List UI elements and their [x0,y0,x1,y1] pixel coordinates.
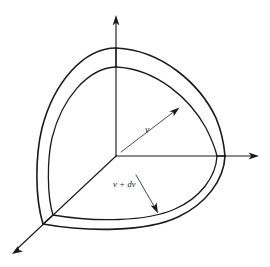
labels-group: v v+dv [113,125,150,189]
depth-axis [12,156,116,254]
inner-radius-arrow-icon [169,108,179,117]
horizontal-axis [116,153,259,160]
shell-thickness-leader [136,175,158,214]
shell-thickness-arrow-icon [151,203,158,214]
outer-shell-left-arc [37,48,116,224]
inner-radius-leader [121,108,180,153]
shell-cap-depth [43,215,53,224]
shell-thickness-leader-line [136,175,156,209]
outer-radius-variable: v [113,179,117,189]
outer-shell-top-right-arc [116,48,225,156]
shell-edge-caps [43,48,225,224]
velocity-shell-figure: v v+dv [0,0,270,267]
vertical-axis [113,15,120,156]
figure-canvas: v v+dv [0,0,270,267]
outer-radius-label: v+dv [113,179,136,189]
annotation-group [121,108,180,214]
outer-radius-operator: + [120,179,125,189]
depth-axis-line [18,156,116,248]
outer-shell-surface [37,48,225,229]
depth-axis-arrow-icon [12,246,23,254]
outer-radius-differential: dv [128,179,136,189]
inner-shell-top-right-arc [116,67,217,156]
